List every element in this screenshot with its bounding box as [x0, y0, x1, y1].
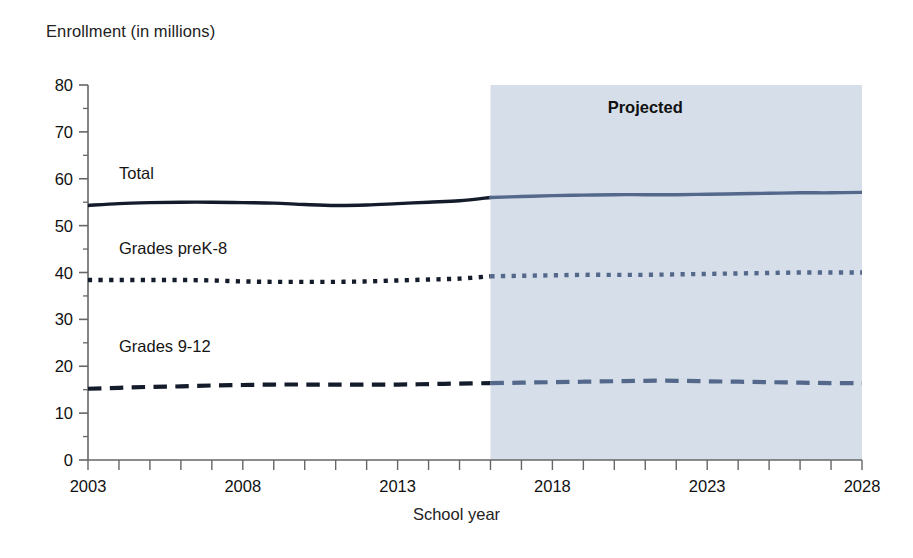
- series-inline-labels: TotalGrades preK-8Grades 9-12: [119, 164, 227, 355]
- y-tick-labels: 01020304050607080: [55, 76, 73, 469]
- series-label-2: Grades 9-12: [119, 337, 211, 355]
- x-tick-labels: 200320082013201820232028: [70, 477, 881, 495]
- svg-text:50: 50: [55, 217, 73, 235]
- series-line-1-actual: [88, 276, 490, 282]
- projected-shaded-region: [490, 85, 862, 460]
- series-line-0-actual: [88, 198, 490, 206]
- series-label-0: Total: [119, 164, 154, 182]
- series-label-1: Grades preK-8: [119, 239, 227, 257]
- svg-text:0: 0: [64, 451, 73, 469]
- svg-text:2013: 2013: [379, 477, 416, 495]
- enrollment-line-chart: Enrollment (in millions) 010203040506070…: [0, 0, 913, 558]
- series-line-2-actual: [88, 383, 490, 389]
- svg-text:2028: 2028: [844, 477, 881, 495]
- svg-text:2018: 2018: [534, 477, 571, 495]
- svg-text:2008: 2008: [224, 477, 261, 495]
- svg-text:2023: 2023: [689, 477, 726, 495]
- svg-text:40: 40: [55, 264, 73, 282]
- svg-text:80: 80: [55, 76, 73, 94]
- svg-text:30: 30: [55, 310, 73, 328]
- svg-text:10: 10: [55, 404, 73, 422]
- svg-text:2003: 2003: [70, 477, 107, 495]
- svg-text:60: 60: [55, 170, 73, 188]
- series-line-2-projected: [490, 381, 862, 383]
- chart-annotations: Projected: [608, 98, 683, 116]
- x-axis-label: School year: [0, 505, 913, 524]
- svg-text:20: 20: [55, 357, 73, 375]
- chart-canvas: 01020304050607080 2003200820132018202320…: [0, 0, 913, 558]
- svg-text:70: 70: [55, 123, 73, 141]
- annotation-projected: Projected: [608, 98, 683, 116]
